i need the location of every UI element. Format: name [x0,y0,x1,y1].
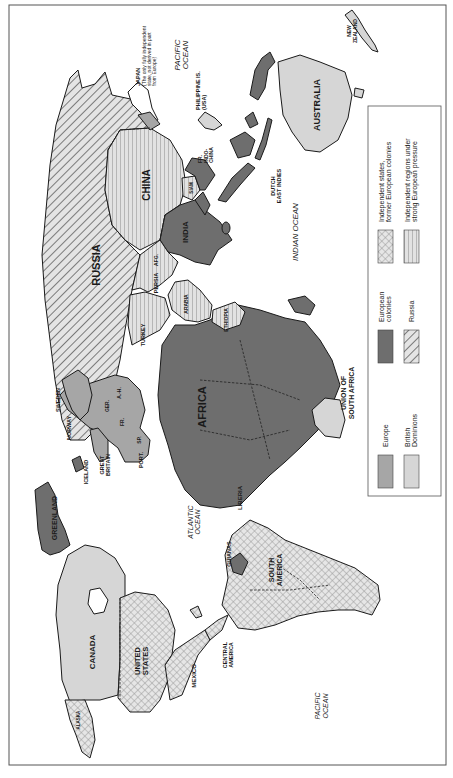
label-persia: PERSIA [153,273,159,294]
world-map-1914: RUSSIA CHINA INDIA JAPAN (The only fully… [0,0,453,778]
label-liberia: LIBERIA [237,485,243,510]
label-union-sa-2: SOUTH AFRICA [348,367,355,420]
label-philippines-2: (USA) [201,95,207,110]
legend-label-british-dominions-2: Dominions [411,413,418,447]
label-portugal: PORT. [138,451,144,468]
legend: Europe British Dominions European coloni… [368,106,441,496]
label-mexico: MEXICO [191,664,197,688]
label-austria-hungary: A.-H. [116,387,122,399]
label-indian-ocean: INDIAN OCEAN [291,203,300,261]
label-dutch-east-indies-2: EAST INDIES [276,168,282,203]
label-united-states-2: STATES [141,647,150,675]
legend-swatch-european-colonies [378,330,393,363]
label-guianas: GUIANAS [226,541,232,567]
label-russia: RUSSIA [90,244,102,286]
label-turkey: TURKEY [140,323,146,346]
legend-swatch-british-dominions [404,455,419,488]
legend-swatch-independent-regions [404,230,419,263]
label-new-zealand-2: ZEALAND [352,19,358,43]
label-pacific-ocean-bottom-1: PACIFIC [314,692,321,720]
label-pacific-ocean-bottom-2: OCEAN [322,693,329,719]
label-south-america-1: SOUTH [268,558,275,583]
label-france: FR. [119,417,125,426]
label-spain: SP. [136,436,142,444]
label-central-america-2: AMERICA [228,642,234,668]
legend-label-independent-states-2: former European colonies [385,141,393,222]
label-canada: CANADA [88,634,97,669]
label-ethiopia: ETHIOPIA [223,308,229,332]
label-germany: GER. [104,399,110,412]
label-greenland: GREENLAND [51,496,58,540]
label-union-sa-1: UNION OF [340,375,347,410]
label-india: INDIA [181,221,190,243]
label-great-britain-2: BRITAIN [105,454,111,476]
label-africa: AFRICA [196,386,208,428]
legend-label-british-dominions-1: British [404,427,411,447]
label-afghanistan: AFG. [153,253,159,266]
region-canada [56,545,125,702]
island-tasmania [354,88,364,98]
label-norway: NORWAY [66,416,72,440]
label-siam: SIAM [189,182,194,194]
legend-label-european-colonies-2: colonies [385,296,392,322]
label-fr-indochina-3: CHINA [208,147,214,163]
legend-label-independent-regions-2: strong European pressure [411,141,419,222]
label-sweden: SWEDEN [55,388,61,412]
label-australia: AUSTRALIA [312,79,322,131]
legend-label-russia: Russia [408,300,415,322]
label-atlantic-ocean-1: ATLANTIC [187,504,194,539]
legend-label-europe: Europe [382,424,390,447]
label-south-america-2: AMERICA [276,554,283,587]
label-arabia: ARABIA [183,294,189,314]
label-iceland: ICELAND [83,460,89,484]
label-atlantic-ocean-2: OCEAN [194,509,201,535]
label-pacific-ocean-top-2: OCEAN [181,41,190,70]
label-japan-note-3: from Europe) [151,56,157,86]
label-china: CHINA [141,169,152,201]
legend-swatch-independent-states [378,230,393,263]
legend-swatch-europe [378,455,393,488]
label-alaska: ALASKA [76,710,81,729]
legend-swatch-russia [404,330,419,363]
island-ceylon [222,222,230,234]
